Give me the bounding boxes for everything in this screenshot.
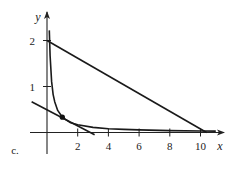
line-through-0-2--line — [47, 41, 207, 133]
series — [32, 30, 216, 134]
axes — [30, 12, 224, 154]
chart: 24681012 xyc. — [0, 0, 241, 181]
curve-line — [49, 30, 216, 131]
x-tick-label: 8 — [167, 140, 173, 152]
x-tick-label: 2 — [75, 140, 81, 152]
y-tick-label: 2 — [30, 35, 36, 47]
panel-label: c. — [11, 144, 19, 156]
y-axis-label: y — [34, 10, 41, 24]
labels: xyc. — [11, 10, 223, 156]
x-tick-label: 6 — [136, 140, 142, 152]
x-tick-label: 4 — [106, 140, 112, 152]
x-axis-label: x — [216, 139, 223, 153]
y-tick-label: 1 — [30, 81, 36, 93]
x-tick-label: 10 — [195, 140, 207, 152]
tangent-point-dot — [60, 115, 65, 120]
ticks: 24681012 — [30, 35, 207, 152]
